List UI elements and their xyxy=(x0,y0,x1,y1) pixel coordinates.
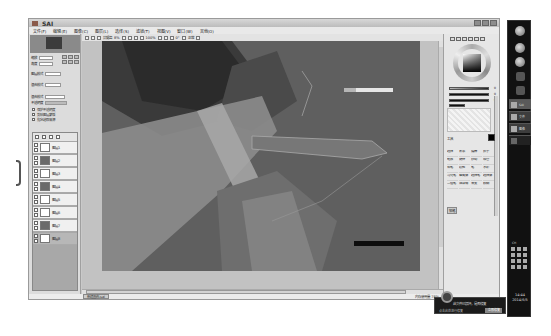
tool-hand[interactable]: 抓手 xyxy=(483,150,494,157)
tool-gradient[interactable]: 渐变 xyxy=(471,182,482,189)
tool-magic-wand[interactable]: 魔棒 xyxy=(471,150,482,157)
mixer-button[interactable] xyxy=(474,37,479,41)
zoom-field[interactable] xyxy=(39,56,53,60)
rgb-slider-button[interactable] xyxy=(456,37,461,41)
color-wheel[interactable] xyxy=(453,44,491,82)
menu-file[interactable]: 文件(F) xyxy=(33,28,46,34)
tool-zoom[interactable]: 缩放 xyxy=(447,158,458,165)
layer-item[interactable]: 图层6 xyxy=(33,207,77,219)
zoom-out-button[interactable] xyxy=(128,36,132,40)
tray-icon[interactable] xyxy=(517,265,521,269)
nav-rotate-right-button[interactable] xyxy=(68,60,73,64)
visibility-icon[interactable] xyxy=(34,182,38,191)
rotate-right-button[interactable] xyxy=(164,36,168,40)
invert-button[interactable] xyxy=(97,36,101,40)
color-wheel-button[interactable] xyxy=(450,37,455,41)
tool-marker[interactable]: 马克笔 xyxy=(447,174,458,181)
tool-pencil[interactable]: 铅笔 xyxy=(447,166,458,173)
zoom-fit-button[interactable] xyxy=(140,36,144,40)
palette-button[interactable] xyxy=(468,37,473,41)
notification-subtitle[interactable]: 点击此处进行修复 xyxy=(439,309,463,313)
nav-zoom-in-button[interactable] xyxy=(62,55,67,59)
tool-blur[interactable]: 模糊 xyxy=(483,182,494,189)
visibility-icon[interactable] xyxy=(34,208,38,217)
foreground-color[interactable] xyxy=(488,134,495,141)
menu-edit[interactable]: 编辑(E) xyxy=(53,28,67,34)
menu-layer[interactable]: 图层(L) xyxy=(95,28,108,34)
navigator-viewport[interactable] xyxy=(46,37,62,49)
new-folder-button[interactable] xyxy=(42,135,46,139)
tray-icon[interactable] xyxy=(523,265,527,269)
close-button[interactable] xyxy=(490,20,497,26)
tray-icon[interactable] xyxy=(511,259,515,263)
tray-icon[interactable] xyxy=(511,253,515,257)
mode-value[interactable]: 正常 xyxy=(188,35,194,40)
tool-rotate[interactable]: 旋转 xyxy=(459,158,470,165)
minimize-button[interactable] xyxy=(474,20,481,26)
saturation-value-square[interactable] xyxy=(463,54,481,72)
tray-icon[interactable] xyxy=(517,259,521,263)
hue-slider[interactable] xyxy=(449,87,489,90)
tray-icon[interactable] xyxy=(523,253,527,257)
rotate-left-button[interactable] xyxy=(158,36,162,40)
value-slider[interactable] xyxy=(449,99,489,102)
flip-button[interactable] xyxy=(182,36,186,40)
navigator-thumbnail[interactable] xyxy=(30,35,80,53)
tray-icon[interactable] xyxy=(523,247,527,251)
copy-layer-button[interactable] xyxy=(49,135,53,139)
menu-image[interactable]: 图像(C) xyxy=(74,28,88,34)
tool-select-eraser[interactable]: 选择擦 xyxy=(483,174,494,181)
tool-lasso[interactable]: 套索 xyxy=(459,150,470,157)
mode-dropdown[interactable] xyxy=(196,36,200,40)
layer-item[interactable]: 图层3 xyxy=(33,168,77,180)
maximize-button[interactable] xyxy=(482,20,489,26)
nav-rotate-left-button[interactable] xyxy=(62,60,67,64)
taskbar-task-image[interactable]: 图像 xyxy=(509,123,531,133)
tray-icon[interactable] xyxy=(517,253,521,257)
notification-action-button[interactable]: 立即修复 xyxy=(485,308,502,313)
tool-select[interactable]: 选择 xyxy=(447,150,458,157)
mode-select-1[interactable] xyxy=(45,72,61,76)
rotate-reset-button[interactable] xyxy=(170,36,174,40)
menu-other[interactable]: 其他(O) xyxy=(200,28,214,34)
layer-item[interactable]: 图层5 xyxy=(33,194,77,206)
taskbar-task-sai[interactable]: SAI xyxy=(509,99,531,109)
tool-eraser[interactable]: 橡皮擦 xyxy=(459,174,470,181)
clock[interactable]: 14:44 2014/6/5 xyxy=(509,293,531,302)
brush-size-slider[interactable] xyxy=(449,104,465,107)
swatch-palette[interactable] xyxy=(447,108,491,132)
taskbar-task-file[interactable]: 文件 xyxy=(509,111,531,121)
visibility-icon[interactable] xyxy=(34,143,38,152)
tray-icon[interactable] xyxy=(511,247,515,251)
tray-icon[interactable] xyxy=(511,265,515,269)
tool-binary-pen[interactable]: 二值笔 xyxy=(447,182,458,189)
tool-select-pen[interactable]: 选择笔 xyxy=(471,174,482,181)
select-all-button[interactable] xyxy=(85,36,89,40)
tool-bucket[interactable]: 油漆桶 xyxy=(459,182,470,189)
check-selection-source[interactable]: 指定选取来源 xyxy=(32,117,55,122)
title-bar[interactable]: SAI xyxy=(29,19,499,27)
document-tab[interactable]: 新建画布.sai xyxy=(83,294,109,299)
tool-eyedropper[interactable]: 吸管 xyxy=(483,158,494,165)
visibility-icon[interactable] xyxy=(34,156,38,165)
angle-field[interactable] xyxy=(39,62,53,66)
layer-item-selected[interactable]: 图层8 xyxy=(33,233,77,245)
visibility-icon[interactable] xyxy=(34,169,38,178)
layer-item[interactable]: 图层7 xyxy=(33,220,77,232)
delete-layer-button[interactable] xyxy=(56,135,60,139)
deselect-button[interactable] xyxy=(91,36,95,40)
angle-value[interactable]: 0° xyxy=(176,36,180,40)
taskbar-app-icon-4[interactable] xyxy=(516,86,525,95)
tray-icon[interactable] xyxy=(523,259,527,263)
visibility-icon[interactable] xyxy=(34,195,38,204)
visibility-icon[interactable] xyxy=(34,221,38,230)
taskbar-task-empty[interactable] xyxy=(509,135,531,145)
nav-zoom-out-button[interactable] xyxy=(68,55,73,59)
start-button-icon[interactable] xyxy=(515,26,525,36)
tray-icon[interactable] xyxy=(517,247,521,251)
menu-view[interactable]: 视图(V) xyxy=(157,28,171,34)
zoom-in-button[interactable] xyxy=(122,36,126,40)
zoom-value[interactable]: 100% xyxy=(146,36,156,40)
tool-brush[interactable]: 笔 xyxy=(471,166,482,173)
layer-item[interactable]: 图层4 xyxy=(33,181,77,193)
